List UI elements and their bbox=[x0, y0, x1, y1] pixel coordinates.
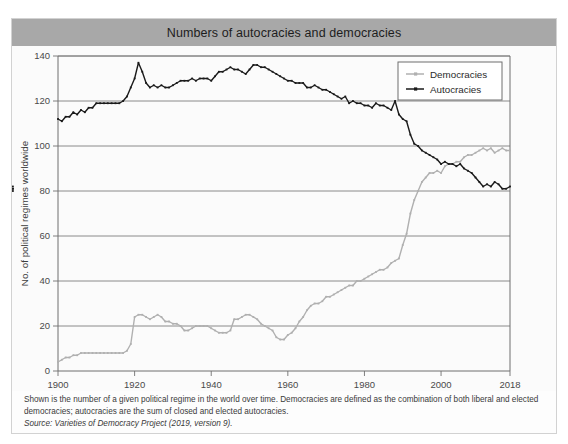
series-marker bbox=[191, 78, 193, 80]
series-marker bbox=[145, 316, 147, 318]
series-marker bbox=[402, 118, 404, 120]
y-tick-label: 100 bbox=[34, 140, 50, 151]
series-marker bbox=[302, 82, 304, 84]
series-marker bbox=[153, 84, 155, 86]
series-marker bbox=[467, 154, 469, 156]
series-marker bbox=[471, 154, 473, 156]
series-marker bbox=[421, 150, 423, 152]
series-marker bbox=[149, 318, 151, 320]
series-marker bbox=[360, 280, 362, 282]
series-marker bbox=[180, 325, 182, 327]
series-marker bbox=[379, 105, 381, 107]
series-marker bbox=[275, 73, 277, 75]
chart-page: Numbers of autocracies and democracies 0… bbox=[0, 0, 568, 444]
series-marker bbox=[134, 316, 136, 318]
x-tick-label: 2000 bbox=[430, 379, 451, 390]
series-marker bbox=[398, 114, 400, 116]
series-marker bbox=[237, 69, 239, 71]
y-axis-title: No. of political regimes worldwide bbox=[19, 140, 30, 286]
series-marker bbox=[95, 352, 97, 354]
series-marker bbox=[12, 186, 14, 188]
series-marker bbox=[214, 75, 216, 77]
series-marker bbox=[61, 359, 63, 361]
y-axis-ticks: 020406080100120140 bbox=[34, 50, 58, 376]
series-marker bbox=[383, 105, 385, 107]
y-tick-label: 80 bbox=[39, 185, 50, 196]
series-marker bbox=[134, 78, 136, 80]
series-marker bbox=[210, 80, 212, 82]
series-marker bbox=[76, 114, 78, 116]
series-marker bbox=[272, 71, 274, 73]
series-marker bbox=[452, 163, 454, 165]
series-marker bbox=[367, 276, 369, 278]
series-marker bbox=[390, 109, 392, 111]
series-marker bbox=[88, 352, 90, 354]
legend-label-democracies: Democracies bbox=[430, 69, 487, 80]
series-marker bbox=[306, 87, 308, 89]
series-marker bbox=[295, 327, 297, 329]
series-marker bbox=[505, 150, 507, 152]
series-marker bbox=[302, 316, 304, 318]
series-marker bbox=[279, 339, 281, 341]
chart-title-bar: Numbers of autocracies and democracies bbox=[12, 19, 556, 46]
series-marker bbox=[176, 323, 178, 325]
series-marker bbox=[425, 177, 427, 179]
legend-marker bbox=[414, 72, 417, 75]
caption-body: Shown is the number of a given political… bbox=[24, 394, 544, 418]
series-marker bbox=[218, 71, 220, 73]
series-marker bbox=[122, 352, 124, 354]
series-marker bbox=[364, 278, 366, 280]
series-marker bbox=[199, 325, 201, 327]
series-marker bbox=[387, 107, 389, 109]
series-marker bbox=[318, 303, 320, 305]
x-tick-label: 1960 bbox=[277, 379, 298, 390]
series-marker bbox=[161, 316, 163, 318]
series-marker bbox=[463, 156, 465, 158]
series-marker bbox=[337, 291, 339, 293]
series-marker bbox=[80, 109, 82, 111]
series-marker bbox=[99, 102, 101, 104]
series-marker bbox=[325, 89, 327, 91]
series-marker bbox=[61, 120, 63, 122]
series-marker bbox=[172, 84, 174, 86]
series-marker bbox=[398, 258, 400, 260]
series-marker bbox=[226, 332, 228, 334]
series-marker bbox=[138, 314, 140, 316]
series-marker bbox=[138, 62, 140, 64]
series-marker bbox=[486, 183, 488, 185]
series-marker bbox=[260, 323, 262, 325]
series-marker bbox=[325, 296, 327, 298]
series-marker bbox=[103, 102, 105, 104]
series-marker bbox=[237, 318, 239, 320]
series-marker bbox=[252, 316, 254, 318]
series-marker bbox=[371, 273, 373, 275]
series-marker bbox=[501, 147, 503, 149]
series-marker bbox=[482, 147, 484, 149]
series-marker bbox=[107, 102, 109, 104]
y-tick-label: 140 bbox=[34, 50, 50, 61]
series-marker bbox=[341, 98, 343, 100]
x-tick-label: 1920 bbox=[124, 379, 145, 390]
series-marker bbox=[394, 100, 396, 102]
series-marker bbox=[195, 325, 197, 327]
series-marker bbox=[360, 102, 362, 104]
x-tick-label: 2018 bbox=[499, 379, 520, 390]
series-marker bbox=[329, 296, 331, 298]
series-marker bbox=[509, 150, 511, 152]
series-marker bbox=[84, 111, 86, 113]
series-marker bbox=[318, 87, 320, 89]
series-marker bbox=[478, 181, 480, 183]
series-marker bbox=[92, 107, 94, 109]
series-marker bbox=[279, 75, 281, 77]
chart-card: Numbers of autocracies and democracies 0… bbox=[11, 18, 557, 434]
series-marker bbox=[432, 156, 434, 158]
x-tick-label: 1980 bbox=[354, 379, 375, 390]
series-marker bbox=[375, 102, 377, 104]
series-marker bbox=[111, 352, 113, 354]
series-marker bbox=[383, 269, 385, 271]
series-marker bbox=[367, 105, 369, 107]
series-marker bbox=[459, 163, 461, 165]
series-marker bbox=[321, 89, 323, 91]
series-marker bbox=[494, 152, 496, 154]
series-marker bbox=[348, 102, 350, 104]
